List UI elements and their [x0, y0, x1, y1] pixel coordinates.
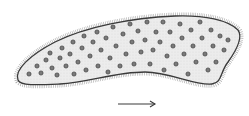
illustration [0, 0, 249, 116]
cell-drawing [0, 0, 249, 116]
direction-arrow [118, 101, 155, 107]
